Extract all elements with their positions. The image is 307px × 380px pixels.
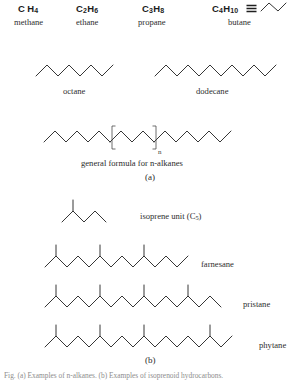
formula-ethane: C2H6	[76, 3, 98, 14]
structure-general-formula	[44, 124, 240, 154]
formula-propane-h-sub: 8	[160, 7, 164, 14]
formula-propane-c-sub: 3	[149, 7, 153, 14]
structure-farnesane	[45, 243, 197, 271]
panel-label-a: (a)	[145, 172, 155, 182]
carbon-backbone	[45, 296, 221, 307]
label-phytane: phytane	[259, 340, 286, 350]
carbon-backbone	[45, 336, 232, 347]
label-methane: methane	[14, 17, 43, 27]
formula-methane: C H4	[18, 3, 38, 14]
carbon-backbone-left	[44, 131, 110, 142]
caption-general-formula: general formula for n-alkanes	[81, 158, 183, 168]
formula-butane-h-sub: 10	[230, 7, 238, 14]
footer-caption: Fig. (a) Examples of n-alkanes. (b) Exam…	[4, 371, 304, 380]
structure-isoprene	[62, 198, 114, 226]
label-propane: propane	[138, 17, 166, 27]
label-isoprene: isoprene unit (C5)	[140, 211, 201, 221]
label-isoprene-main: isoprene unit (C	[140, 211, 195, 221]
structure-dodecane	[155, 62, 285, 82]
carbon-backbone-repeat	[110, 131, 154, 142]
formula-methane-h-subscript	[25, 7, 27, 14]
label-farnesane: farnesane	[201, 259, 234, 269]
formula-butane-c-sub: 4	[219, 7, 223, 14]
equivalence-symbol	[246, 4, 257, 13]
structure-phytane	[45, 323, 241, 351]
carbon-backbone	[62, 211, 106, 222]
panel-label-b: (b)	[145, 355, 156, 365]
structure-butane	[261, 0, 295, 18]
label-butane: butane	[228, 17, 251, 27]
carbon-backbone-right	[154, 131, 231, 142]
label-dodecane: dodecane	[196, 86, 228, 96]
label-octane: octane	[63, 86, 85, 96]
formula-ethane-h-sub: 6	[94, 7, 98, 14]
label-isoprene-tail: )	[199, 211, 202, 221]
carbon-backbone	[261, 3, 286, 11]
structure-pristane	[45, 283, 229, 311]
carbon-backbone	[36, 65, 113, 76]
figure-canvas: C H4 methane C2H6 ethane C3H8 propane C4…	[0, 0, 307, 380]
carbon-backbone	[155, 65, 276, 76]
structure-octane	[36, 62, 122, 82]
formula-propane: C3H8	[142, 3, 164, 14]
formula-methane-sub: 4	[34, 7, 38, 14]
formula-ethane-c-sub: 2	[83, 7, 87, 14]
label-pristane: pristane	[243, 299, 270, 309]
carbon-backbone	[45, 256, 188, 267]
repeat-unit-subscript: n	[158, 148, 162, 156]
label-ethane: ethane	[76, 17, 98, 27]
formula-butane: C4H10	[212, 3, 238, 14]
repeat-bracket-right	[153, 126, 157, 149]
